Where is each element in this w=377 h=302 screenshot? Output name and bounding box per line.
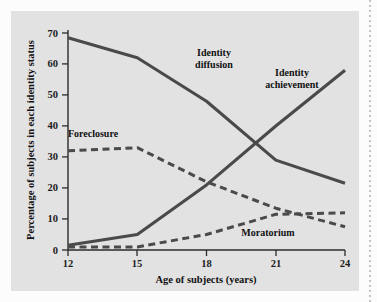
y-axis-ticks [62, 33, 68, 250]
y-axis-tick-labels: 0 10 20 30 40 50 60 70 [48, 28, 59, 256]
x-axis-ticks [68, 250, 345, 256]
series-label-identity-diffusion-line1: Identity [197, 47, 231, 58]
series-label-foreclosure: Foreclosure [68, 128, 119, 139]
y-tick-label-0: 0 [53, 245, 58, 256]
figure-root: 0 10 20 30 40 50 60 70 12 15 18 21 24 Ag… [0, 0, 377, 302]
x-tick-label-24: 24 [340, 258, 351, 269]
x-tick-label-15: 15 [132, 258, 143, 269]
y-axis-title: Percentage of subjects in each identity … [25, 40, 36, 240]
series-label-identity-achievement-line1: Identity [275, 67, 309, 78]
identity-status-line-chart: 0 10 20 30 40 50 60 70 12 15 18 21 24 Ag… [0, 0, 377, 302]
x-tick-label-12: 12 [63, 258, 74, 269]
y-tick-label-20: 20 [48, 182, 59, 193]
y-tick-label-40: 40 [48, 120, 59, 131]
right-edge-dotted-rule [369, 0, 371, 302]
series-annotations: Identity diffusion Identity achievement … [68, 47, 319, 238]
x-axis-title: Age of subjects (years) [155, 274, 257, 286]
series-line-foreclosure [68, 148, 345, 227]
x-tick-label-18: 18 [201, 258, 212, 269]
x-axis-tick-labels: 12 15 18 21 24 [63, 258, 351, 269]
series-label-identity-achievement-line2: achievement [265, 79, 319, 90]
y-tick-label-10: 10 [48, 213, 59, 224]
y-tick-label-50: 50 [48, 89, 59, 100]
series-label-moratorium: Moratorium [241, 227, 295, 238]
x-tick-label-21: 21 [271, 258, 282, 269]
y-tick-label-30: 30 [48, 151, 59, 162]
series-line-moratorium [68, 213, 345, 247]
series-line-identity-achievement [68, 70, 345, 245]
y-tick-label-60: 60 [48, 58, 59, 69]
series-label-identity-diffusion-line2: diffusion [195, 59, 233, 70]
y-tick-label-70: 70 [48, 28, 59, 39]
